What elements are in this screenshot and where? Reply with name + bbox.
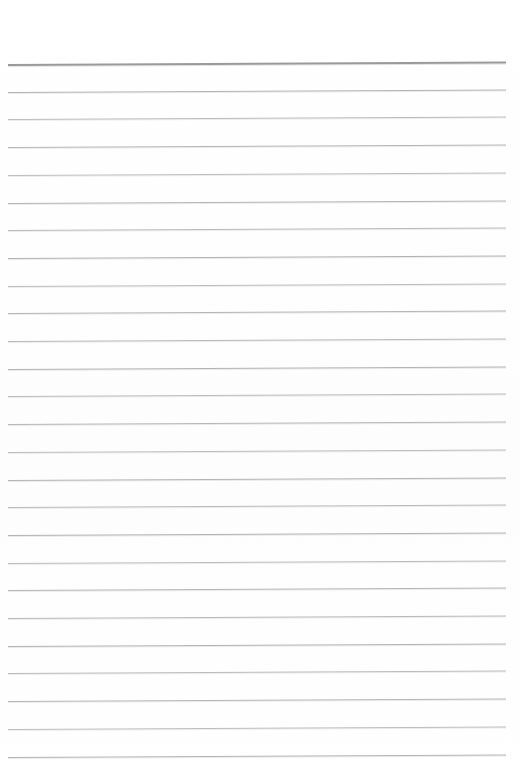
scanned-page — [0, 0, 520, 782]
writing-area[interactable] — [0, 0, 520, 782]
